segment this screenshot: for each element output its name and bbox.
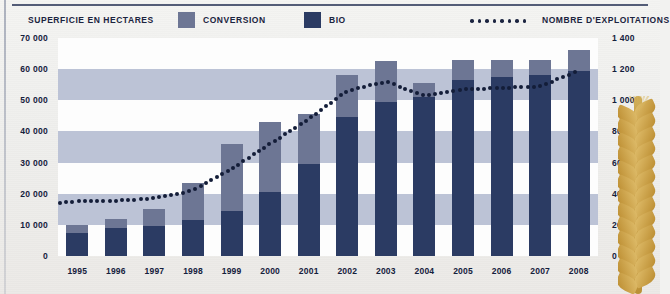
chart-legend: SUPERFICIE EN HECTARES CONVERSION BIO NO… <box>0 12 660 34</box>
line-data-dot <box>334 97 338 101</box>
line-data-dot <box>262 146 266 150</box>
line-data-dot <box>550 80 554 84</box>
y-axis-right-tick: 1 400 <box>612 33 635 43</box>
line-data-dot <box>273 139 277 143</box>
line-data-dot <box>209 178 213 182</box>
line-data-dot <box>157 195 161 199</box>
line-data-dot <box>181 191 185 195</box>
line-data-dot <box>501 86 505 90</box>
line-data-dot <box>451 89 455 93</box>
line-data-dot <box>241 159 245 163</box>
line-data-dot <box>304 119 308 123</box>
line-data-dot <box>324 104 328 108</box>
line-data-dot <box>145 197 149 201</box>
line-data-dot <box>95 199 99 203</box>
line-data-dot <box>139 197 143 201</box>
x-axis-labels: 1995199619971998199920002001200220032004… <box>58 266 598 284</box>
line-data-dot <box>495 86 499 90</box>
line-data-dot <box>187 189 191 193</box>
y-axis-right: 02004006008001 0001 2001 400 <box>604 38 654 256</box>
chart-plot-area: 010 00020 00030 00040 00050 00060 00070 … <box>0 38 660 266</box>
x-axis-tick-label: 2007 <box>530 266 550 276</box>
legend-title: SUPERFICIE EN HECTARES <box>28 15 154 25</box>
y-axis-right-tick: 1 000 <box>612 95 635 105</box>
line-series-layer <box>58 38 598 256</box>
y-axis-left-tick: 0 <box>43 251 48 261</box>
line-data-dot <box>89 199 93 203</box>
line-data-dot <box>368 83 372 87</box>
line-data-dot <box>470 87 474 91</box>
legend-label-bio: BIO <box>329 15 346 25</box>
line-data-dot <box>344 90 348 94</box>
line-data-dot <box>226 169 230 173</box>
x-axis-tick-label: 1998 <box>183 266 203 276</box>
y-axis-left-tick: 30 000 <box>20 158 48 168</box>
line-data-dot <box>350 88 354 92</box>
line-data-dot <box>132 198 136 202</box>
x-axis-tick-label: 1995 <box>67 266 87 276</box>
line-data-dot <box>519 85 523 89</box>
x-axis-tick-label: 2003 <box>376 266 396 276</box>
line-data-dot <box>252 152 256 156</box>
line-data-dot <box>507 86 511 90</box>
line-data-dot <box>362 85 366 89</box>
line-data-dot <box>288 129 292 133</box>
legend-swatch-bio <box>304 12 321 28</box>
line-data-dot <box>114 199 118 203</box>
line-data-dot <box>482 87 486 91</box>
line-data-dot <box>329 101 333 105</box>
y-axis-left: 010 00020 00030 00040 00050 00060 00070 … <box>0 38 56 256</box>
line-data-dot <box>464 87 468 91</box>
x-axis-tick-label: 2002 <box>337 266 357 276</box>
line-data-dot <box>532 85 536 89</box>
line-data-dot <box>220 172 224 176</box>
line-data-dot <box>427 93 431 97</box>
line-data-dot <box>236 163 240 167</box>
line-data-dot <box>83 199 87 203</box>
line-data-dot <box>77 199 81 203</box>
line-data-dot <box>415 91 419 95</box>
line-data-dot <box>555 77 559 81</box>
y-axis-right-tick: 600 <box>612 158 627 168</box>
y-axis-left-tick: 20 000 <box>20 189 48 199</box>
line-data-dot <box>58 201 62 205</box>
y-axis-right-tick: 0 <box>612 251 617 261</box>
line-data-dot <box>64 200 68 204</box>
line-data-dot <box>120 198 124 202</box>
line-data-dot <box>374 82 378 86</box>
x-axis-tick-label: 2001 <box>299 266 319 276</box>
line-data-dot <box>567 73 571 77</box>
line-data-dot <box>544 82 548 86</box>
line-data-dot <box>309 115 313 119</box>
line-data-dot <box>561 75 565 79</box>
line-data-dot <box>231 166 235 170</box>
top-rule-divider <box>12 4 648 6</box>
x-axis-tick-label: 1999 <box>222 266 242 276</box>
line-data-dot <box>175 192 179 196</box>
line-data-dot <box>257 149 261 153</box>
line-data-dot <box>439 91 443 95</box>
line-data-dot <box>476 87 480 91</box>
line-data-dot <box>386 80 390 84</box>
x-axis-tick-label: 2000 <box>260 266 280 276</box>
y-axis-left-tick: 10 000 <box>20 220 48 230</box>
line-data-dot <box>293 126 297 130</box>
y-axis-right-tick: 200 <box>612 220 627 230</box>
line-data-dot <box>169 193 173 197</box>
x-axis-tick-label: 2008 <box>569 266 589 276</box>
line-data-dot <box>409 89 413 93</box>
y-axis-right-tick: 400 <box>612 189 627 199</box>
line-data-dot <box>319 108 323 112</box>
legend-swatch-conversion <box>178 12 195 28</box>
line-data-dot <box>151 196 155 200</box>
line-data-dot <box>513 85 517 89</box>
legend-dotted-line-icon <box>470 19 526 23</box>
y-axis-left-tick: 70 000 <box>20 33 48 43</box>
line-data-dot <box>458 88 462 92</box>
line-data-dot <box>163 194 167 198</box>
line-data-dot <box>339 93 343 97</box>
line-data-dot <box>398 85 402 89</box>
x-axis-tick-label: 2004 <box>415 266 435 276</box>
line-data-dot <box>421 93 425 97</box>
legend-label-exploitations: NOMBRE D'EXPLOITATIONS <box>542 15 670 25</box>
